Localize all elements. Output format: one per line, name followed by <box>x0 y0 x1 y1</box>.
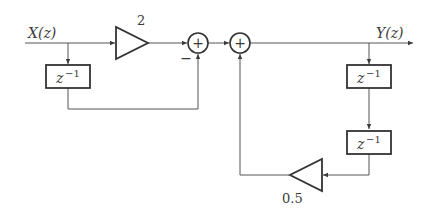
delay-output-1: z −1 <box>347 65 391 88</box>
gain-forward: 2 <box>116 13 148 59</box>
summer-1-minus-sign: − <box>180 50 192 66</box>
block-diagram: 2 + − + z −1 z −1 z −1 0.5 X(z) Y(z) <box>0 0 432 212</box>
delay-output-1-exponent: −1 <box>366 68 381 79</box>
wire-feedback-to-summer2 <box>240 54 289 175</box>
delay-input: z −1 <box>46 65 90 88</box>
gain-forward-label: 2 <box>137 13 145 28</box>
delay-output-2-base: z <box>356 136 365 152</box>
summer-1: + − <box>180 33 208 66</box>
input-label: X(z) <box>27 25 56 41</box>
summer-2: + <box>230 33 250 53</box>
delay-output-2: z −1 <box>347 131 391 154</box>
delay-input-exponent: −1 <box>65 68 80 79</box>
gain-feedback-triangle <box>290 159 322 191</box>
delay-output-2-exponent: −1 <box>366 134 381 145</box>
gain-forward-triangle <box>116 27 148 59</box>
summer-2-plus: + <box>234 35 246 51</box>
output-label: Y(z) <box>376 25 404 41</box>
delay-output-1-base: z <box>356 70 365 86</box>
gain-feedback-label: 0.5 <box>282 191 303 206</box>
delay-input-base: z <box>55 70 64 86</box>
summer-1-plus: + <box>192 35 204 51</box>
gain-feedback: 0.5 <box>282 159 322 206</box>
wire-delay2-to-feedback-gain <box>323 154 369 175</box>
